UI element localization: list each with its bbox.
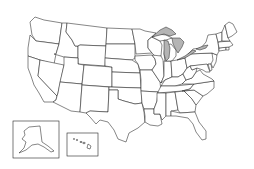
hawaii-inset — [67, 133, 98, 156]
state-kansas[interactable] — [112, 72, 141, 88]
state-florida[interactable] — [171, 111, 206, 140]
alaska-inset — [13, 121, 59, 158]
state-massachusetts[interactable] — [218, 41, 233, 48]
lake-michigan — [164, 40, 170, 61]
us-outline-map — [0, 0, 254, 169]
hawaii-inset-frame — [67, 133, 98, 156]
state-colorado[interactable] — [82, 65, 112, 87]
state-wyoming[interactable] — [78, 45, 106, 66]
state-south-dakota[interactable] — [105, 44, 135, 60]
state-new-mexico[interactable] — [80, 85, 109, 113]
state-north-dakota[interactable] — [106, 28, 135, 44]
contiguous-states — [28, 17, 237, 142]
